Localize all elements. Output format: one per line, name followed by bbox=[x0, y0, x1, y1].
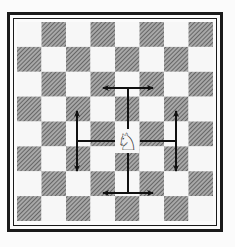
light-square bbox=[42, 196, 67, 221]
light-square bbox=[17, 122, 42, 147]
dark-square bbox=[164, 47, 189, 72]
light-square bbox=[189, 196, 214, 221]
knight-piece: ♘ bbox=[115, 128, 139, 156]
dark-square bbox=[42, 72, 67, 97]
light-square bbox=[42, 146, 67, 171]
dark-square bbox=[189, 122, 214, 147]
light-square bbox=[66, 122, 91, 147]
light-square bbox=[189, 146, 214, 171]
light-square bbox=[91, 97, 116, 122]
light-square bbox=[189, 47, 214, 72]
dark-square bbox=[66, 146, 91, 171]
dark-square bbox=[42, 171, 67, 196]
light-square bbox=[17, 171, 42, 196]
light-square bbox=[91, 47, 116, 72]
dark-square bbox=[140, 72, 165, 97]
light-square bbox=[140, 97, 165, 122]
dark-square bbox=[189, 22, 214, 47]
light-square bbox=[17, 72, 42, 97]
light-square bbox=[140, 47, 165, 72]
dark-square bbox=[140, 22, 165, 47]
dark-square bbox=[91, 22, 116, 47]
dark-square bbox=[17, 47, 42, 72]
dark-square bbox=[17, 146, 42, 171]
knight-icon: ♘ bbox=[116, 128, 138, 156]
dark-square bbox=[91, 122, 116, 147]
light-square bbox=[189, 97, 214, 122]
knight-move-diagram: ♘ bbox=[0, 0, 235, 247]
light-square bbox=[42, 47, 67, 72]
light-square bbox=[164, 22, 189, 47]
light-square bbox=[115, 22, 140, 47]
dark-square bbox=[66, 97, 91, 122]
light-square bbox=[140, 146, 165, 171]
light-square bbox=[91, 146, 116, 171]
dark-square bbox=[42, 122, 67, 147]
dark-square bbox=[115, 196, 140, 221]
board-squares bbox=[17, 22, 213, 221]
dark-square bbox=[17, 97, 42, 122]
light-square bbox=[66, 22, 91, 47]
dark-square bbox=[91, 72, 116, 97]
dark-square bbox=[17, 196, 42, 221]
light-square bbox=[164, 171, 189, 196]
dark-square bbox=[140, 122, 165, 147]
light-square bbox=[164, 72, 189, 97]
light-square bbox=[42, 97, 67, 122]
dark-square bbox=[66, 47, 91, 72]
light-square bbox=[66, 72, 91, 97]
dark-square bbox=[164, 196, 189, 221]
dark-square bbox=[115, 47, 140, 72]
light-square bbox=[91, 196, 116, 221]
light-square bbox=[66, 171, 91, 196]
dark-square bbox=[189, 72, 214, 97]
light-square bbox=[140, 196, 165, 221]
dark-square bbox=[189, 171, 214, 196]
light-square bbox=[17, 22, 42, 47]
dark-square bbox=[42, 22, 67, 47]
dark-square bbox=[66, 196, 91, 221]
